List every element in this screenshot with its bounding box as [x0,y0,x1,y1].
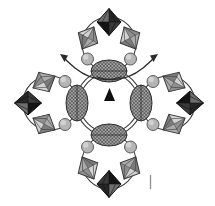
hatched-ellipse [130,85,152,121]
figure-container [0,0,215,206]
hatched-ellipse [66,85,88,121]
sphere [82,141,94,153]
crystal-structure-diagram [0,0,215,206]
sphere [59,119,71,131]
sphere [82,53,94,65]
sphere [59,76,71,88]
sphere [147,76,159,88]
hatched-ellipse [91,124,127,146]
sphere [125,141,137,153]
sphere [147,119,159,131]
sphere [125,53,137,65]
